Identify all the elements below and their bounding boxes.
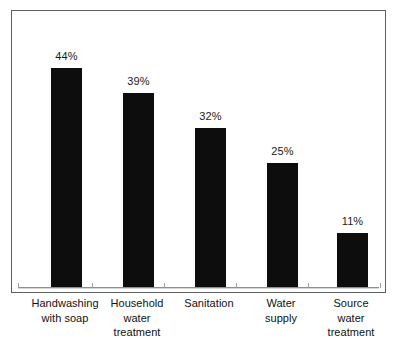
- category-label-handwashing-with-soap: Handwashing with soap: [24, 296, 106, 325]
- bar-rect[interactable]: [337, 233, 368, 287]
- bar-value-label: 39%: [101, 75, 176, 88]
- bar-value-label: 32%: [173, 110, 248, 123]
- axis-tick: [380, 283, 381, 288]
- bar-value-label: 25%: [245, 145, 320, 158]
- plot-frame: 44% 39% 32% 25% 11%: [11, 10, 386, 293]
- plot-area: 44% 39% 32% 25% 11%: [12, 11, 385, 292]
- category-label-sanitation: Sanitation: [168, 296, 250, 311]
- category-label-line: water: [310, 311, 392, 326]
- axis-tick: [308, 283, 309, 288]
- category-label-line: Source: [310, 296, 392, 311]
- category-axis-labels: Handwashing with soap Household water tr…: [11, 296, 386, 342]
- bar-group: 39%: [101, 93, 176, 287]
- bar-group: 11%: [315, 233, 390, 287]
- bar-value-label: 11%: [315, 215, 390, 228]
- category-label-line: Sanitation: [168, 296, 250, 311]
- category-label-line: Household: [96, 296, 178, 311]
- category-label-line: treatment: [310, 325, 392, 340]
- category-label-line: with soap: [24, 311, 106, 326]
- bar-value-label: 44%: [29, 50, 104, 63]
- category-label-line: treatment: [96, 325, 178, 340]
- bar-chart-figure: 44% 39% 32% 25% 11%: [0, 0, 398, 345]
- category-label-household-water-treatment: Household water treatment: [96, 296, 178, 340]
- bar-rect[interactable]: [195, 128, 226, 287]
- category-axis-line: [18, 287, 379, 288]
- bar-group: 32%: [173, 128, 248, 287]
- category-label-line: Handwashing: [24, 296, 106, 311]
- bar-rect[interactable]: [123, 93, 154, 287]
- axis-tick: [236, 283, 237, 288]
- bar-rect[interactable]: [51, 68, 82, 287]
- bar-rect[interactable]: [267, 163, 298, 287]
- category-label-source-water-treatment: Source water treatment: [310, 296, 392, 340]
- bar-group: 25%: [245, 163, 320, 287]
- category-label-line: water: [96, 311, 178, 326]
- axis-tick: [164, 283, 165, 288]
- axis-tick: [18, 283, 19, 288]
- axis-tick: [92, 283, 93, 288]
- bar-group: 44%: [29, 68, 104, 287]
